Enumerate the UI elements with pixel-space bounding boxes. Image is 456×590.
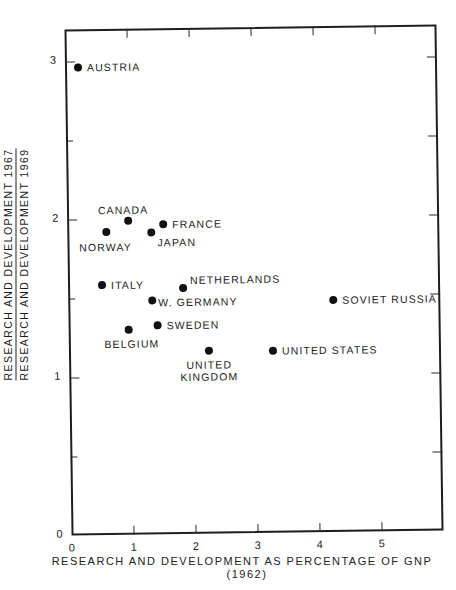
x-tick (381, 522, 382, 531)
x-tick (319, 523, 320, 532)
x-axis-label: RESEARCH AND DEVELOPMENT AS PERCENTAGE O… (0, 555, 456, 581)
x-axis-label-main: RESEARCH AND DEVELOPMENT AS PERCENTAGE O… (0, 555, 456, 568)
x-tick-label: 3 (255, 539, 262, 551)
x-tick-label: 0 (69, 542, 76, 554)
point-label-norway: NORWAY (79, 241, 132, 254)
data-point-united-kingdom (205, 347, 213, 355)
y-tick-label: 0 (56, 528, 63, 540)
point-label-japan: JAPAN (157, 236, 196, 249)
y-axis-label-denominator: RESEARCH AND DEVELOPMENT 1969 (17, 149, 31, 381)
data-point-netherlands (179, 284, 187, 292)
plot-area: 0 1 2 3 4 5 0 1 2 3 AUSTRIA CANADA FRANC… (64, 24, 443, 535)
y-tick-right (427, 56, 437, 57)
y-tick (68, 298, 75, 299)
uk-label-line1: UNITED (180, 358, 238, 371)
y-tick (65, 61, 75, 62)
point-label-united-states: UNITED STATES (282, 343, 378, 356)
y-tick (66, 141, 73, 142)
x-tick-top (312, 26, 313, 35)
point-label-belgium: BELGIUM (104, 337, 159, 350)
data-point-norway (102, 228, 110, 236)
y-tick-label: 3 (50, 54, 57, 66)
point-label-france: FRANCE (172, 217, 222, 230)
data-point-austria (74, 63, 82, 71)
x-tick-top (374, 25, 375, 34)
point-label-w-germany: W. GERMANY (158, 295, 237, 308)
y-tick (69, 377, 79, 378)
y-axis-label-numerator: RESEARCH AND DEVELOPMENT 1967 (2, 149, 17, 381)
uk-label-line2: KINGDOM (180, 370, 238, 383)
x-tick-label: 2 (193, 540, 200, 552)
point-label-soviet-russia: SOVIET RUSSIA (342, 292, 437, 305)
x-tick-label: 4 (317, 538, 324, 550)
data-point-france (159, 220, 167, 228)
point-label-netherlands: NETHERLANDS (190, 273, 280, 286)
point-label-sweden: SWEDEN (167, 318, 220, 331)
y-tick-right (431, 372, 441, 373)
point-label-united-kingdom: UNITED KINGDOM (180, 358, 238, 383)
data-point-sweden (154, 321, 162, 329)
x-tick-label: 5 (379, 537, 386, 549)
point-label-italy: ITALY (111, 279, 144, 291)
x-tick (195, 525, 196, 534)
point-label-austria: AUSTRIA (87, 61, 140, 74)
data-point-italy (98, 281, 106, 289)
data-point-soviet-russia (329, 296, 337, 304)
x-tick (257, 524, 258, 533)
y-tick-label: 2 (52, 212, 59, 224)
y-tick (70, 456, 77, 457)
x-tick-top (250, 27, 251, 36)
y-tick-label: 1 (54, 370, 61, 382)
data-point-canada (124, 217, 132, 225)
x-axis-label-sub: (1962) (0, 568, 456, 581)
y-tick-right (432, 451, 442, 452)
data-point-japan (147, 228, 155, 236)
x-tick-top (188, 28, 189, 37)
data-point-w-germany (148, 296, 156, 304)
x-tick-top (126, 29, 127, 38)
x-tick (133, 526, 134, 535)
x-tick-label: 1 (131, 541, 138, 553)
point-label-canada: CANADA (98, 203, 149, 216)
y-tick-right (429, 214, 439, 215)
y-tick (67, 219, 77, 220)
data-point-belgium (125, 326, 133, 334)
y-tick-right (428, 135, 438, 136)
